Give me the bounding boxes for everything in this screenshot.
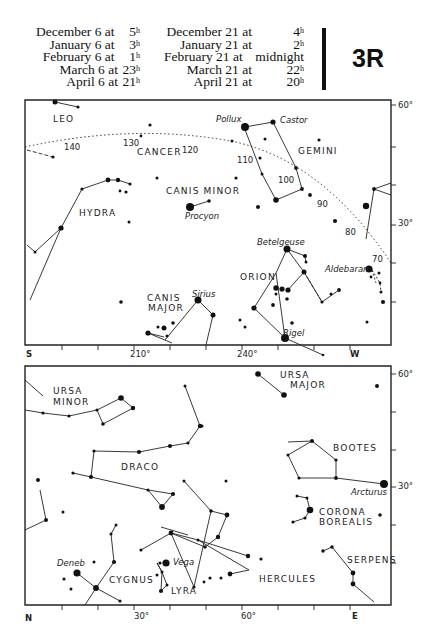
svg-text:210°: 210° xyxy=(130,349,150,359)
svg-text:60°: 60° xyxy=(241,611,256,621)
svg-text:80: 80 xyxy=(345,227,356,237)
canis-minor-label: CANIS MINOR xyxy=(166,186,240,196)
castor-label: Castor xyxy=(280,115,308,125)
serpens-label: SERPENS xyxy=(347,555,397,565)
leo-label: LEO xyxy=(53,114,74,124)
cancer-label: CANCER xyxy=(137,147,182,157)
svg-text:70: 70 xyxy=(372,254,383,264)
pollux-label: Pollux xyxy=(216,114,242,124)
bootes-label: BOOTES xyxy=(333,443,377,453)
svg-text:140: 140 xyxy=(64,142,80,152)
arcturus-label: Arcturus xyxy=(350,487,388,497)
deneb-label: Deneb xyxy=(57,558,85,568)
corona-borealis-label: CORONA xyxy=(319,507,366,517)
canis-major-label: MAJOR xyxy=(148,303,184,313)
svg-text:130: 130 xyxy=(123,138,139,148)
aldebaran-label: Aldebaran xyxy=(324,264,369,274)
svg-text:100: 100 xyxy=(278,175,294,185)
draco-label: DRACO xyxy=(121,462,159,472)
svg-text:60°: 60° xyxy=(398,369,413,379)
corona-borealis-label: BOREALIS xyxy=(319,517,373,527)
rigel-label: Rigel xyxy=(283,328,305,338)
south-star-map: LEO CANCER GEMINI HYDRA CANIS MINOR ORIO… xyxy=(0,95,431,360)
axis-south: S xyxy=(26,349,32,359)
procyon-label: Procyon xyxy=(185,211,219,221)
svg-text:90: 90 xyxy=(317,199,328,209)
axis-west: W xyxy=(350,349,360,359)
north-star-map: URSA MINOR URSA MAJOR DRACO BOOTES CORON… xyxy=(0,360,431,637)
betelgeuse-label: Betelgeuse xyxy=(257,237,305,247)
svg-text:30°: 30° xyxy=(134,611,149,621)
ursa-major-label: MAJOR xyxy=(290,380,326,390)
gemini-label: GEMINI xyxy=(298,146,338,156)
hercules-label: HERCULES xyxy=(259,574,316,584)
hydra-label: HYDRA xyxy=(79,208,116,218)
svg-text:60°: 60° xyxy=(398,100,413,110)
ursa-minor-label: URSA xyxy=(53,386,83,396)
time-row: April 21 at20h xyxy=(164,76,304,89)
ursa-major-label: URSA xyxy=(280,370,310,380)
svg-text:30°: 30° xyxy=(398,218,413,228)
lyra-label: LYRA xyxy=(171,586,197,596)
cygnus-label: CYGNUS xyxy=(109,575,154,585)
svg-text:120: 120 xyxy=(182,145,198,155)
orion-label: ORION xyxy=(240,272,276,282)
times-6th-column: December 6 at 5h January 6 at 3h Februar… xyxy=(30,26,140,89)
svg-text:240°: 240° xyxy=(237,349,257,359)
chart-code: 3R xyxy=(352,44,384,73)
axis-east: E xyxy=(352,611,358,621)
axis-north: N xyxy=(25,613,32,623)
vega-label: Vega xyxy=(173,557,194,567)
ursa-minor-label: MINOR xyxy=(53,397,90,407)
sirius-label: Sirius xyxy=(192,289,216,299)
canis-major-label: CANIS xyxy=(147,293,181,303)
header-divider xyxy=(322,28,326,90)
times-21st-column: December 21 at4h January 21 at2h Februar… xyxy=(164,26,304,89)
time-row: April 6 at21h xyxy=(30,76,140,89)
svg-text:110: 110 xyxy=(237,155,253,165)
svg-text:30°: 30° xyxy=(398,481,413,491)
